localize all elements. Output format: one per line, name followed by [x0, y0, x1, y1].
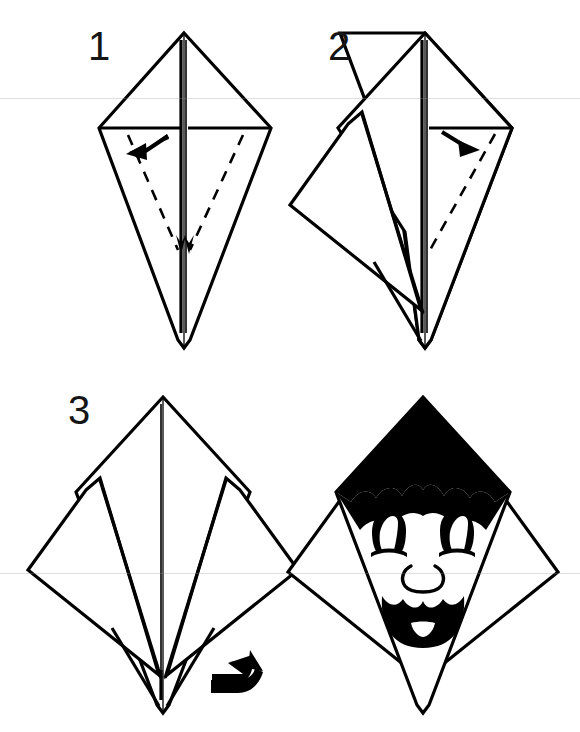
step-1-panel: 1 [0, 0, 290, 380]
step-1-number: 1 [88, 26, 110, 66]
finished-face-figure [290, 380, 580, 732]
step-1-figure [0, 0, 290, 380]
step-2-number: 2 [328, 26, 350, 66]
step-3-number: 3 [68, 390, 90, 430]
step-3-panel: 3 [0, 380, 290, 732]
kite-outline [99, 33, 271, 348]
turn-over-arrow [211, 650, 263, 693]
right-eye [439, 510, 475, 557]
left-eye [371, 510, 407, 557]
step-4-panel [290, 380, 580, 732]
step-2-panel: 2 [290, 0, 580, 380]
hair [336, 397, 510, 530]
step-3-figure [0, 380, 290, 732]
instruction-sheet: 1 [0, 0, 580, 732]
